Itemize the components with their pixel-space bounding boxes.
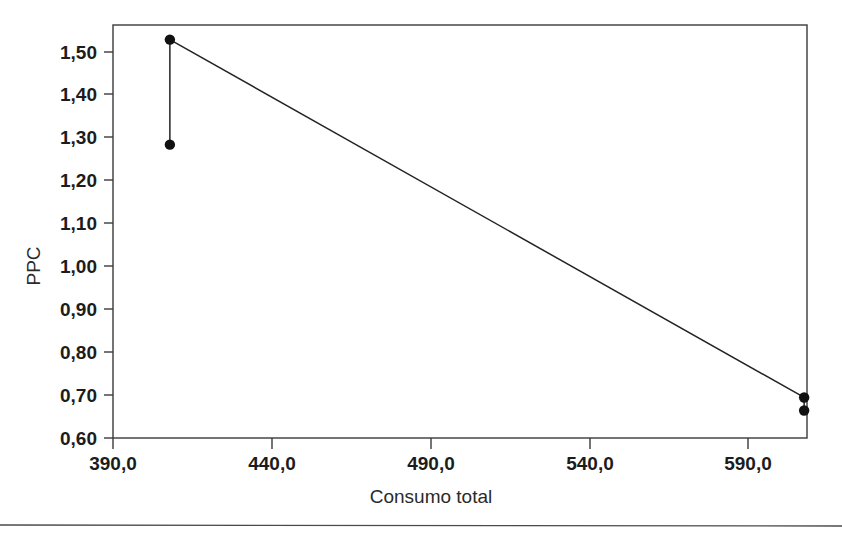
point-upper-left [165,34,175,44]
point-upper-right [799,392,809,402]
point-lower-right [799,405,809,415]
y-tick-label-1-20: 1,20 [60,170,97,191]
point-lower-left [165,139,175,149]
series-line-group [170,40,804,411]
y-tick-label-1-30: 1,30 [60,127,97,148]
x-tick-label-440: 440,0 [248,453,296,474]
y-axis-tick-labels: 1,50 1,40 1,30 1,20 1,10 1,00 0,90 0,80 … [60,42,97,449]
x-tick-label-590: 590,0 [724,453,772,474]
y-tick-label-0-60: 0,60 [60,428,97,449]
x-axis-ticks [113,438,748,449]
y-axis-ticks [104,52,113,438]
y-tick-label-1-50: 1,50 [60,42,97,63]
plot-area-border [113,25,807,438]
x-axis-title: Consumo total [370,486,493,507]
y-tick-label-1-40: 1,40 [60,84,97,105]
x-tick-label-390: 390,0 [89,453,137,474]
y-tick-label-0-90: 0,90 [60,299,97,320]
x-axis-tick-labels: 390,0 440,0 490,0 540,0 590,0 [89,453,772,474]
y-tick-label-0-80: 0,80 [60,342,97,363]
y-tick-label-1-00: 1,00 [60,256,97,277]
y-tick-label-1-10: 1,10 [60,213,97,234]
x-tick-label-490: 490,0 [407,453,455,474]
y-tick-label-0-70: 0,70 [60,385,97,406]
figure-container: 1,50 1,40 1,30 1,20 1,10 1,00 0,90 0,80 … [0,0,842,538]
page-bottom-rule [0,525,842,526]
plot-frame [113,25,807,438]
segment-diagonal [170,40,804,398]
y-axis-title: PPC [23,246,44,285]
x-tick-label-540: 540,0 [566,453,614,474]
chart-canvas: 1,50 1,40 1,30 1,20 1,10 1,00 0,90 0,80 … [0,0,842,538]
